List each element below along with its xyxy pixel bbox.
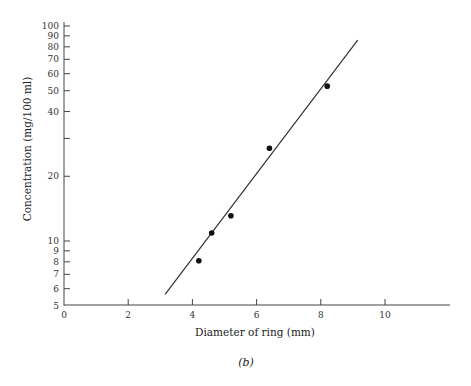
y-tick-label: 10: [48, 236, 60, 246]
y-tick-label: 5: [53, 301, 59, 311]
y-tick-label: 100: [42, 21, 59, 31]
x-tick-label: 6: [254, 310, 260, 320]
chart: 567891020405060708090100 0246810 Concent…: [0, 0, 471, 386]
figure-caption: (b): [238, 356, 254, 369]
y-tick-label: 70: [48, 54, 60, 64]
data-point: [209, 230, 215, 236]
y-tick-label: 6: [53, 284, 59, 294]
fit-line: [165, 40, 358, 294]
y-tick-label: 60: [48, 69, 60, 79]
x-tick-label: 0: [61, 310, 67, 320]
x-tick-label: 2: [125, 310, 131, 320]
y-axis-title: Concentration (mg/100 ml): [21, 77, 33, 222]
y-tick-label: 50: [48, 86, 60, 96]
x-axis: 0246810: [61, 299, 450, 320]
y-tick-label: 7: [53, 269, 59, 279]
x-tick-label: 10: [379, 310, 391, 320]
y-tick-label: 40: [48, 107, 60, 117]
data-point: [196, 258, 202, 264]
x-axis-title: Diameter of ring (mm): [195, 326, 315, 338]
y-tick-label: 20: [48, 171, 60, 181]
y-tick-label: 90: [48, 31, 60, 41]
y-tick-label: 80: [48, 42, 60, 52]
data-point: [228, 213, 234, 219]
y-axis: 567891020405060708090100: [42, 21, 70, 311]
y-tick-label: 9: [53, 246, 59, 256]
x-tick-label: 8: [318, 310, 324, 320]
y-tick-label: 8: [53, 257, 59, 267]
data-point: [267, 145, 273, 151]
data-points: [196, 83, 330, 263]
data-point: [324, 83, 330, 89]
fitted-line: [165, 40, 358, 294]
x-tick-label: 4: [190, 310, 196, 320]
